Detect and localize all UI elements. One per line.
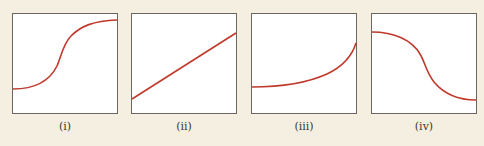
plot-box-i bbox=[12, 13, 118, 114]
panel-label-i: (i) bbox=[12, 120, 118, 133]
panel-iv: (iv) bbox=[371, 13, 477, 114]
plot-box-iv bbox=[371, 13, 477, 114]
panel-label-iii: (iii) bbox=[251, 120, 357, 133]
exponential-increasing-curve bbox=[252, 14, 356, 113]
sigmoid-decreasing-curve bbox=[372, 14, 476, 113]
linear-increasing-line bbox=[132, 14, 236, 113]
panel-label-ii: (ii) bbox=[131, 120, 237, 133]
plot-box-ii bbox=[131, 13, 237, 114]
panel-i: (i) bbox=[12, 13, 118, 114]
panel-ii: (ii) bbox=[131, 13, 237, 114]
panel-label-iv: (iv) bbox=[371, 120, 477, 133]
plot-box-iii bbox=[251, 13, 357, 114]
panel-iii: (iii) bbox=[251, 13, 357, 114]
sigmoid-increasing-curve bbox=[13, 14, 117, 113]
